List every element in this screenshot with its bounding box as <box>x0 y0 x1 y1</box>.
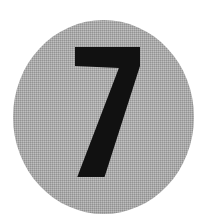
disc-edge-shading <box>13 20 194 214</box>
disc-texture-overlay <box>13 20 194 214</box>
badge-number-label: 7 <box>0 0 1 1</box>
badge-canvas: 7 <box>0 0 208 219</box>
circle-badge-icon <box>13 20 194 214</box>
